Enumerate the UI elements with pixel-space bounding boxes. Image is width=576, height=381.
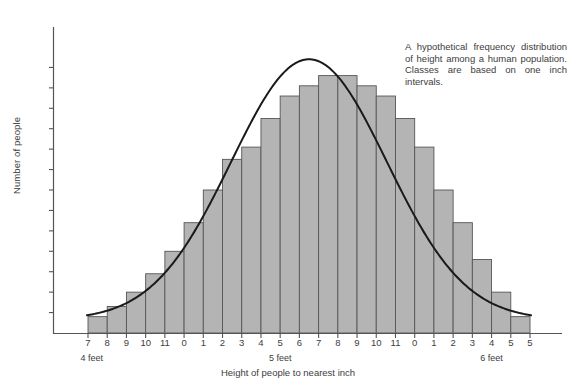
x-tick-label: 5 bbox=[518, 337, 542, 348]
figure-caption: A hypothetical frequency distribution of… bbox=[405, 41, 567, 87]
x-axis-group-label: 6 feet bbox=[462, 353, 522, 363]
x-axis-group-label: 5 feet bbox=[250, 353, 310, 363]
x-axis-title: Height of people to nearest inch bbox=[0, 367, 576, 378]
x-axis-group-label: 4 feet bbox=[62, 353, 122, 363]
figure-histogram-height-distribution: Number of people 10203040506070809010011… bbox=[0, 0, 576, 381]
